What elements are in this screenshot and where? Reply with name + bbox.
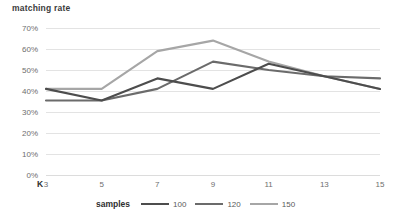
x-tick-label: 9 xyxy=(211,180,215,189)
x-tick-label: 11 xyxy=(265,180,273,189)
legend-item-100[interactable]: 100 xyxy=(141,200,186,209)
line-chart: matching rate 70%60%50%40%30%20%10%0% 35… xyxy=(0,0,394,222)
legend-label-120: 120 xyxy=(227,200,240,209)
legend-label-100: 100 xyxy=(173,200,186,209)
legend-swatch-120 xyxy=(195,203,223,205)
legend-label-150: 150 xyxy=(282,200,295,209)
legend-swatch-100 xyxy=(141,203,169,205)
legend-swatch-150 xyxy=(250,203,278,205)
legend-item-150[interactable]: 150 xyxy=(250,200,295,209)
x-axis-tick-labels: 3579111315 xyxy=(0,0,394,222)
x-tick-label: 5 xyxy=(99,180,103,189)
x-tick-label: 15 xyxy=(376,180,385,189)
legend-item-120[interactable]: 120 xyxy=(195,200,240,209)
x-tick-label: 3 xyxy=(44,180,48,189)
x-tick-label: 13 xyxy=(320,180,329,189)
legend: samples 100120150 xyxy=(96,199,295,209)
x-axis-title: K xyxy=(37,179,43,189)
legend-title: samples xyxy=(96,199,130,209)
x-tick-label: 7 xyxy=(155,180,159,189)
